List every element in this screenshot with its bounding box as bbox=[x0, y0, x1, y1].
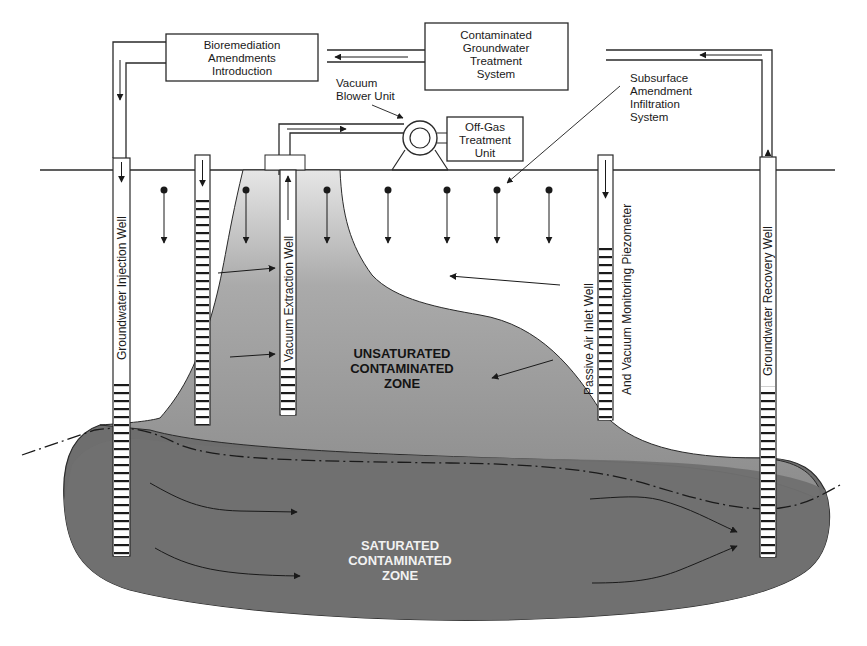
svg-text:Treatment: Treatment bbox=[470, 55, 523, 67]
svg-text:Bioremediation: Bioremediation bbox=[204, 39, 281, 51]
svg-text:Unit: Unit bbox=[475, 147, 496, 159]
svg-text:Passive Air Inlet Well: Passive Air Inlet Well bbox=[582, 283, 596, 395]
svg-text:Treatment: Treatment bbox=[459, 134, 512, 146]
svg-text:System: System bbox=[477, 68, 515, 80]
saturated-zone-core bbox=[64, 439, 829, 620]
svg-text:SATURATED: SATURATED bbox=[361, 538, 439, 553]
groundwater-recovery-well: Groundwater Recovery Well bbox=[760, 157, 776, 557]
svg-text:Groundwater Recovery Well: Groundwater Recovery Well bbox=[761, 226, 775, 376]
svg-text:And Vacuum Monitoring Piezomet: And Vacuum Monitoring Piezometer bbox=[620, 204, 634, 395]
remediation-diagram: Bioremediation Amendments Introduction C… bbox=[0, 0, 867, 646]
svg-text:UNSATURATED: UNSATURATED bbox=[353, 346, 450, 361]
svg-text:Groundwater: Groundwater bbox=[463, 42, 530, 54]
svg-text:Introduction: Introduction bbox=[212, 65, 272, 77]
vacuum-blower-callout: Vacuum Blower Unit bbox=[336, 77, 403, 118]
groundwater-injection-well: Groundwater Injection Well bbox=[113, 158, 130, 556]
svg-text:System: System bbox=[630, 111, 668, 123]
svg-text:Infiltration: Infiltration bbox=[630, 98, 680, 110]
bioremediation-box: Bioremediation Amendments Introduction bbox=[166, 34, 318, 81]
svg-text:Off-Gas: Off-Gas bbox=[465, 121, 505, 133]
vacuum-blower-icon bbox=[392, 121, 448, 170]
svg-text:Contaminated: Contaminated bbox=[460, 29, 532, 41]
svg-text:Vacuum Extraction Well: Vacuum Extraction Well bbox=[282, 236, 296, 362]
svg-text:Blower Unit: Blower Unit bbox=[336, 90, 396, 102]
svg-text:Subsurface: Subsurface bbox=[630, 72, 688, 84]
svg-text:Amendments: Amendments bbox=[208, 52, 276, 64]
svg-text:CONTAMINATED: CONTAMINATED bbox=[348, 553, 452, 568]
passive-air-inlet-well-left bbox=[195, 155, 210, 425]
vacuum-extraction-well: Vacuum Extraction Well bbox=[280, 170, 296, 415]
svg-text:CONTAMINATED: CONTAMINATED bbox=[350, 361, 454, 376]
treatment-system-box: Contaminated Groundwater Treatment Syste… bbox=[425, 23, 568, 90]
svg-text:ZONE: ZONE bbox=[382, 568, 418, 583]
svg-text:Vacuum: Vacuum bbox=[336, 77, 377, 89]
svg-text:ZONE: ZONE bbox=[384, 376, 420, 391]
infiltration-drops bbox=[161, 187, 553, 244]
svg-text:Amendment: Amendment bbox=[630, 85, 693, 97]
svg-text:Groundwater Injection Well: Groundwater Injection Well bbox=[115, 216, 129, 360]
passive-air-inlet-piezometer: Passive Air Inlet Well And Vacuum Monito… bbox=[582, 155, 634, 420]
wellhead-pad bbox=[265, 155, 305, 170]
off-gas-treatment-box: Off-Gas Treatment Unit bbox=[447, 117, 523, 161]
